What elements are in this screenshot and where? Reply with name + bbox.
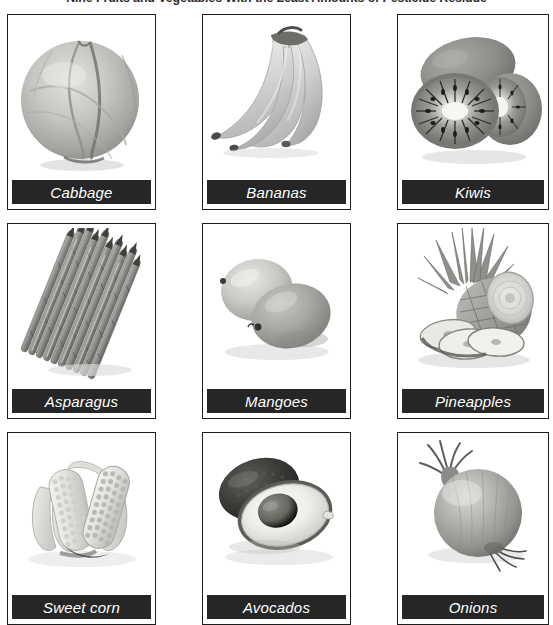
produce-card-cabbage[interactable]: Cabbage bbox=[7, 14, 156, 210]
produce-card-mangoes[interactable]: Mangoes bbox=[202, 223, 351, 419]
produce-label: Sweet corn bbox=[43, 599, 120, 616]
sweetcorn-photo bbox=[12, 437, 151, 592]
mangoes-photo bbox=[207, 228, 346, 386]
page-title: Nine Fruits and Vegetables With the Leas… bbox=[0, 0, 553, 5]
produce-label: Bananas bbox=[246, 184, 307, 201]
caption-bar: Pineapples bbox=[402, 389, 544, 413]
produce-card-pineapples[interactable]: Pineapples bbox=[397, 223, 549, 419]
produce-label: Kiwis bbox=[455, 184, 491, 201]
produce-card-asparagus[interactable]: Asparagus bbox=[7, 223, 156, 419]
pineapples-photo bbox=[402, 228, 544, 386]
caption-bar: Onions bbox=[402, 595, 544, 619]
caption-bar: Avocados bbox=[207, 595, 346, 619]
produce-card-onions[interactable]: Onions bbox=[397, 432, 549, 625]
caption-bar: Mangoes bbox=[207, 389, 346, 413]
cabbage-photo bbox=[12, 19, 151, 177]
produce-card-sweet-corn[interactable]: Sweet corn bbox=[7, 432, 156, 625]
caption-bar: Sweet corn bbox=[12, 595, 151, 619]
produce-label: Pineapples bbox=[435, 393, 511, 410]
produce-grid: Cabbage bbox=[7, 14, 553, 625]
caption-bar: Kiwis bbox=[402, 180, 544, 204]
bananas-photo bbox=[207, 19, 346, 177]
produce-label: Onions bbox=[449, 599, 498, 616]
produce-label: Cabbage bbox=[50, 184, 112, 201]
avocados-photo bbox=[207, 437, 346, 592]
caption-bar: Asparagus bbox=[12, 389, 151, 413]
produce-card-bananas[interactable]: Bananas bbox=[202, 14, 351, 210]
produce-label: Avocados bbox=[243, 599, 310, 616]
caption-bar: Bananas bbox=[207, 180, 346, 204]
kiwis-photo bbox=[402, 19, 544, 177]
caption-bar: Cabbage bbox=[12, 180, 151, 204]
produce-card-avocados[interactable]: Avocados bbox=[202, 432, 351, 625]
produce-label: Asparagus bbox=[45, 393, 119, 410]
asparagus-photo bbox=[12, 228, 151, 386]
produce-card-kiwis[interactable]: Kiwis bbox=[397, 14, 549, 210]
produce-label: Mangoes bbox=[245, 393, 308, 410]
onions-photo bbox=[402, 437, 544, 592]
